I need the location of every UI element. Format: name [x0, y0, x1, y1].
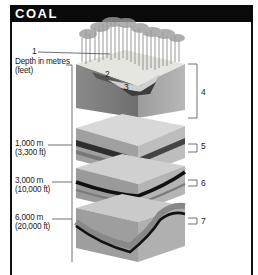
- depth-metres: 3,000 m: [15, 176, 50, 185]
- depth-feet: (3,300 ft): [15, 148, 46, 157]
- depth-feet: (20,000 ft): [15, 222, 50, 231]
- callout-5: 5: [201, 142, 206, 151]
- depth-metres: 1,000 m: [15, 139, 46, 148]
- callout-3: 3: [124, 83, 129, 92]
- axis-label-line2: (feet): [15, 66, 70, 75]
- depth-axis-label: Depth in metres (feet): [15, 57, 70, 75]
- axis-label-line1: Depth in metres: [15, 57, 70, 66]
- callout-6: 6: [201, 179, 206, 188]
- depth-label-3000m: 3,000 m (10,000 ft): [15, 176, 50, 194]
- bituminous-layer-block: [76, 194, 185, 262]
- callout-2: 2: [105, 70, 110, 79]
- callout-1: 1: [32, 47, 37, 56]
- swamp-block: [76, 17, 185, 118]
- callout-7: 7: [201, 217, 206, 226]
- depth-label-6000m: 6,000 m (20,000 ft): [15, 213, 50, 231]
- callout-4: 4: [201, 88, 206, 97]
- depth-feet: (10,000 ft): [15, 185, 50, 194]
- depth-label-1000m: 1,000 m (3,300 ft): [15, 139, 46, 157]
- depth-metres: 6,000 m: [15, 213, 50, 222]
